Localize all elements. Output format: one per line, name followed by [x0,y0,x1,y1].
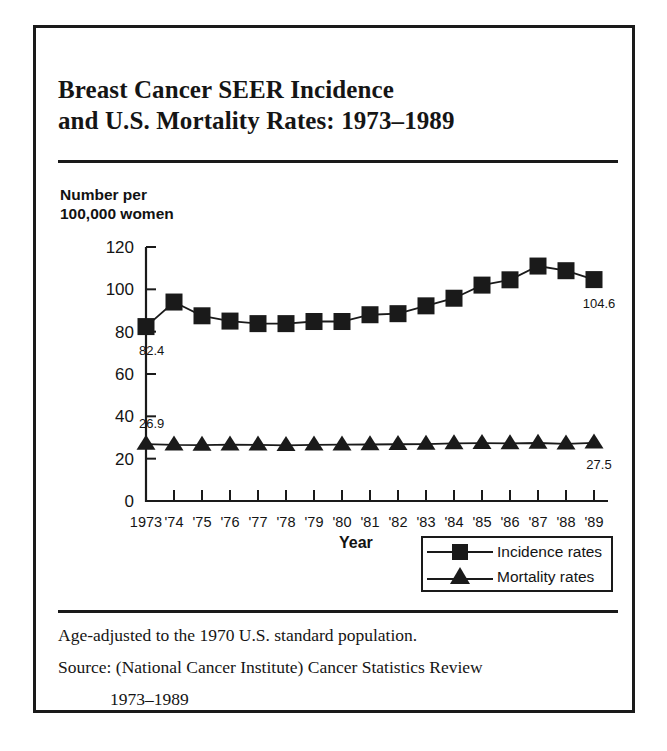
data-point-marker [502,271,519,288]
x-tick-label: 1973 [130,514,162,530]
data-point-marker [529,434,548,449]
x-tick-label: '87 [529,514,548,530]
data-point-marker [558,262,575,279]
data-point-marker [418,297,435,314]
x-tick-label: '82 [389,514,408,530]
y-tick-label: 80 [115,323,134,342]
endpoint-label-last: 27.5 [586,457,611,472]
x-axis-tick-labels: 1973'74'75'76'77'78'79'80'81'82'83'84'85… [130,514,604,530]
x-tick-label: '88 [557,514,576,530]
legend-label-mortality-rates: Mortality rates [497,568,594,586]
data-point-marker [221,435,240,450]
data-point-marker [501,434,520,449]
x-tick-label: '76 [221,514,240,530]
chart-axes [146,247,608,501]
y-tick-label: 20 [115,450,134,469]
square-marker-icon [423,540,497,564]
data-point-marker [165,436,184,451]
data-point-marker [138,318,155,335]
legend-label-incidence-rates: Incidence rates [497,543,602,561]
y-axis-caption: Number per 100,000 women [60,185,174,223]
y-axis-caption-line-2: 100,000 women [60,204,174,223]
y-axis-tick-labels: 020406080100120 [106,238,134,511]
endpoint-label-last: 104.6 [583,296,616,311]
title-divider [58,160,618,163]
data-point-marker [390,305,407,322]
footnote-age-adjusted: Age-adjusted to the 1970 U.S. standard p… [58,624,618,646]
figure-frame: Breast Cancer SEER Incidence and U.S. Mo… [33,25,635,713]
chart-series-incidence-rates [138,258,603,336]
data-point-marker [334,313,351,330]
x-tick-label: '80 [333,514,352,530]
title-line-1: Breast Cancer SEER Incidence [58,74,618,105]
data-point-marker [222,313,239,330]
triangle-marker-icon [423,565,497,589]
x-axis-tick-marks [146,490,594,501]
x-tick-label: '85 [473,514,492,530]
x-tick-label: '86 [501,514,520,530]
y-tick-label: 120 [106,238,134,257]
x-tick-label: '75 [193,514,212,530]
data-point-marker [361,435,380,450]
x-tick-label: '81 [361,514,380,530]
data-point-marker [193,436,212,451]
data-point-marker [474,277,491,294]
data-point-marker [446,290,463,307]
data-point-marker [194,307,211,324]
x-tick-label: '79 [305,514,324,530]
y-tick-label: 0 [125,492,134,511]
x-tick-label: '74 [165,514,184,530]
chart-legend: Incidence rates Mortality rates [421,536,613,592]
y-tick-label: 60 [115,365,134,384]
y-axis-caption-line-1: Number per [60,185,174,204]
data-point-marker [417,435,436,450]
chart-series-layer [137,258,604,451]
data-point-marker [166,294,183,311]
title-line-2: and U.S. Mortality Rates: 1973–1989 [58,105,618,136]
footnote-source: Source: (National Cancer Institute) Canc… [58,656,618,678]
x-tick-label: '78 [277,514,296,530]
y-tick-label: 100 [106,280,134,299]
data-point-marker [586,271,603,288]
data-point-marker [137,435,156,450]
figure-footnotes: Age-adjusted to the 1970 U.S. standard p… [58,624,618,710]
figure-title: Breast Cancer SEER Incidence and U.S. Mo… [58,74,618,136]
footnote-source-years: 1973–1989 [110,688,618,710]
data-point-marker [277,436,296,451]
y-axis-tick-marks [146,247,156,501]
data-point-marker [389,435,408,450]
x-axis-title: Year [339,534,373,552]
chart-plot-area: 020406080100120 1973'74'75'76'77'78'79'8… [48,233,628,543]
data-point-marker [585,433,604,448]
data-point-marker [250,315,267,332]
legend-item-incidence-rates[interactable]: Incidence rates [423,539,611,565]
chart-series-mortality-rates [137,433,604,451]
data-point-marker [305,436,324,451]
x-tick-label: '89 [585,514,604,530]
data-point-marker [306,313,323,330]
data-point-marker [473,434,492,449]
legend-item-mortality-rates[interactable]: Mortality rates [423,564,611,590]
data-point-marker [445,434,464,449]
endpoint-label-first: 26.9 [139,416,164,431]
footnote-divider [58,610,618,613]
line-chart-svg: 020406080100120 1973'74'75'76'77'78'79'8… [48,233,628,543]
data-point-marker [278,315,295,332]
data-point-marker [362,306,379,323]
x-tick-label: '83 [417,514,436,530]
data-point-marker [249,436,268,451]
x-tick-label: '77 [249,514,268,530]
data-point-marker [530,258,547,275]
x-tick-label: '84 [445,514,464,530]
data-point-marker [557,435,576,450]
data-point-marker [333,435,352,450]
y-tick-label: 40 [115,407,134,426]
endpoint-label-first: 82.4 [139,343,164,358]
